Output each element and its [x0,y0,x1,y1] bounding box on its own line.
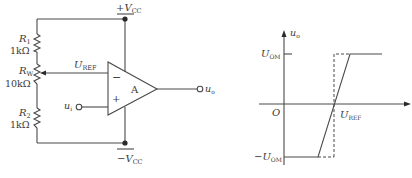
junction-dot-bottom [122,140,127,145]
inverting-input-sign: − [112,71,121,84]
opamp-label: A [130,84,139,95]
diagram-canvas: +VCC −VCC R1 1kΩ RW 10kΩ R2 1kΩ UREF − +… [0,0,412,178]
uref-label: UREF [74,59,97,72]
junction-dot-top [122,16,127,21]
potentiometer-rw-icon [34,64,40,84]
vcc-pos-label: +VCC [116,2,142,15]
uref-axis-label: UREF [340,109,362,121]
output-label: uo [205,83,215,95]
resistor-r1-icon [34,34,40,52]
y-axis-label: uo [290,27,300,39]
rw-label: RW [18,65,34,78]
wiper-arrow-icon [40,71,46,76]
transfer-curve [284,54,382,157]
uom-pos-label: UOM [261,48,281,60]
r2-label: R2 [18,107,31,120]
x-axis-arrow-icon [404,102,411,107]
r1-value: 1kΩ [10,45,30,56]
ideal-transition-dashed [334,54,350,157]
output-terminal [197,86,203,92]
transfer-characteristic-graph: uo O UOM −UOM UREF [254,27,411,165]
r1-label: R1 [18,33,31,46]
noninverting-input-sign: + [112,93,120,104]
rw-value: 10kΩ [5,78,31,89]
origin-label: O [272,107,280,118]
input-label: ui [64,100,72,112]
r2-value: 1kΩ [10,119,30,130]
vcc-neg-label: −VCC [117,153,143,166]
resistor-r2-icon [34,108,40,128]
y-axis-arrow-icon [282,30,287,37]
comparator-circuit: +VCC −VCC R1 1kΩ RW 10kΩ R2 1kΩ UREF − +… [5,2,215,166]
uom-neg-label: −UOM [254,151,282,163]
input-terminal [76,104,82,110]
